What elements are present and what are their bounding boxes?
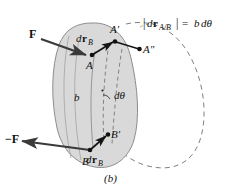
equation-b: b	[194, 17, 200, 29]
point-label-a-prime: A′	[109, 23, 120, 35]
point-label-a: A	[85, 59, 93, 71]
dr-b-top-r: r	[82, 32, 87, 44]
figure-container: F −F A A′ A″ B B′ b dθ d r B d r B	[0, 0, 227, 191]
equation-dtheta: dθ	[201, 17, 213, 29]
dr-b-top-subscript: B	[88, 38, 93, 47]
point-a-double-prime-dot	[137, 47, 142, 52]
force-label-top: F	[29, 27, 36, 41]
point-label-b-prime: B′	[111, 128, 121, 140]
figure-caption: (b)	[104, 172, 117, 185]
point-label-a-double-prime: A″	[142, 43, 155, 55]
point-a-dot	[90, 53, 95, 58]
equation-equals: =	[182, 17, 188, 29]
equation-r: r	[153, 17, 158, 29]
point-b-prime-dot	[106, 132, 111, 137]
equation-dr-ab-magnitude: | d r A/B | = b dθ	[143, 16, 213, 32]
dr-b-bottom-r: r	[92, 153, 97, 165]
point-a-prime-dot	[113, 39, 118, 44]
equation-subscript-a-over-b: A/B	[158, 23, 171, 32]
force-label-bottom: −F	[5, 132, 19, 146]
length-b-label: b	[74, 91, 80, 103]
rigid-body-rotation-diagram: F −F A A′ A″ B B′ b dθ d r B d r B	[0, 0, 227, 191]
angle-vertex-dot	[101, 89, 103, 91]
dr-b-bottom-subscript: B	[98, 159, 103, 168]
equation-abs-open: |	[143, 16, 145, 30]
point-b-dot	[88, 148, 93, 153]
equation-abs-close: |	[176, 16, 178, 30]
angle-label-dtheta: dθ	[114, 89, 126, 101]
